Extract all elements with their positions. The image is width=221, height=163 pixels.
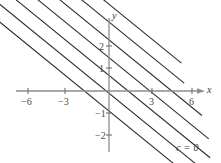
- plot-canvas: [0, 0, 221, 163]
- x-tick-label-6: 6: [189, 97, 194, 107]
- axes-group: [16, 18, 205, 152]
- x-tick-label-3: 3: [149, 97, 154, 107]
- y-tick-label--1: −1: [95, 109, 106, 119]
- x-tick-label--3: −3: [58, 97, 69, 107]
- level-curves-figure: −6 −3 3 6 2 1 −1 −2 x y c = 0: [0, 0, 221, 163]
- y-tick-label-1: 1: [99, 64, 104, 74]
- level-zero-label: c = 0: [176, 143, 199, 153]
- y-axis-label: y: [112, 11, 116, 21]
- x-tick-label--6: −6: [21, 97, 32, 107]
- y-tick-label--2: −2: [95, 131, 106, 141]
- y-tick-label-2: 2: [99, 42, 104, 52]
- x-axis-label: x: [207, 85, 211, 95]
- x-axis-arrowhead: [197, 88, 205, 94]
